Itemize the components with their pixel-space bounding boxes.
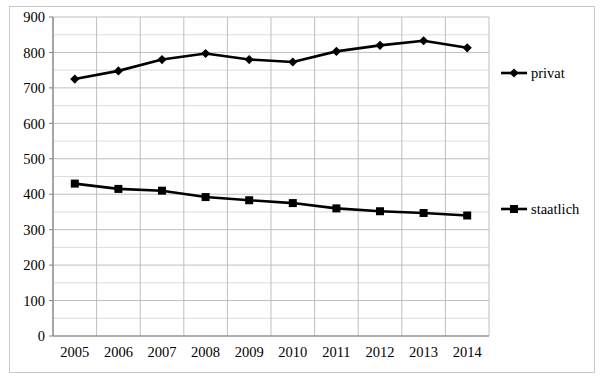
x-axis-tick-label: 2006 <box>104 344 133 360</box>
x-axis-tick-label: 2009 <box>235 344 264 360</box>
data-point-staatlich <box>289 199 297 207</box>
y-axis-tick-labels: 0100200300400500600700800900 <box>23 9 53 344</box>
x-axis-tick-label: 2011 <box>322 344 350 360</box>
legend: privatstaatlich <box>501 65 580 217</box>
y-axis-tick-label: 400 <box>23 186 45 202</box>
x-axis-tick-label: 2010 <box>278 344 307 360</box>
data-point-privat <box>375 41 384 50</box>
line-chart: 0100200300400500600700800900 20052006200… <box>0 0 604 385</box>
data-point-staatlich <box>376 207 384 215</box>
chart-svg: 0100200300400500600700800900 20052006200… <box>0 0 604 385</box>
data-point-staatlich <box>245 196 253 204</box>
y-axis-tick-label: 700 <box>23 80 45 96</box>
y-axis-tick-label: 500 <box>23 151 45 167</box>
x-axis-tick-label: 2013 <box>409 344 438 360</box>
data-point-privat <box>201 49 210 58</box>
y-axis-tick-label: 200 <box>23 257 45 273</box>
legend-marker-staatlich <box>510 205 518 213</box>
data-point-privat <box>245 55 254 64</box>
y-axis-tick-label: 900 <box>23 9 45 25</box>
data-point-privat <box>70 74 79 83</box>
data-point-staatlich <box>71 180 79 188</box>
y-axis-tick-label: 800 <box>23 45 45 61</box>
data-point-staatlich <box>332 204 340 212</box>
data-point-staatlich <box>158 187 166 195</box>
x-axis-tick-label: 2014 <box>453 344 483 360</box>
data-point-staatlich <box>463 211 471 219</box>
y-axis-tick-label: 100 <box>23 293 45 309</box>
legend-label-privat: privat <box>531 65 565 81</box>
data-point-privat <box>114 66 123 75</box>
x-axis-tick-label: 2012 <box>366 344 395 360</box>
data-point-staatlich <box>202 193 210 201</box>
data-point-privat <box>419 36 428 45</box>
y-axis-tick-label: 300 <box>23 222 45 238</box>
x-axis-tick-label: 2008 <box>191 344 220 360</box>
data-point-staatlich <box>114 185 122 193</box>
data-point-privat <box>332 47 341 56</box>
y-axis-tick-label: 600 <box>23 116 45 132</box>
x-axis-tick-label: 2007 <box>148 344 177 360</box>
legend-marker-privat <box>509 68 518 77</box>
x-axis-tick-labels: 2005200620072008200920102011201220132014 <box>60 344 482 360</box>
data-point-privat <box>157 55 166 64</box>
legend-label-staatlich: staatlich <box>531 201 580 217</box>
data-point-privat <box>288 57 297 66</box>
y-axis-tick-label: 0 <box>38 328 45 344</box>
x-axis-tick-label: 2005 <box>60 344 89 360</box>
data-point-staatlich <box>420 209 428 217</box>
data-point-privat <box>463 43 472 52</box>
